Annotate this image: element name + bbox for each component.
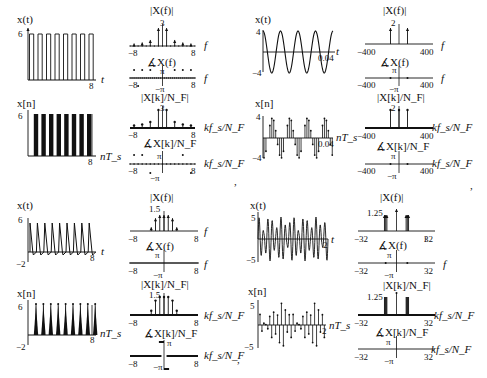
phase-dot <box>190 77 192 79</box>
phase-dot <box>137 262 139 264</box>
sample-dot <box>308 333 310 335</box>
dft-sample-dot <box>149 121 151 123</box>
phase-dot <box>141 163 143 165</box>
dft-sample-dot <box>190 124 192 126</box>
x-min-label: −8 <box>128 319 138 328</box>
x-axis-label: f <box>204 40 207 51</box>
dft-sample-dot <box>133 124 135 126</box>
dft-sample-dot <box>396 292 398 294</box>
impulse-arrow-icon <box>395 209 398 212</box>
phase-dot <box>152 77 154 79</box>
x-axis-label: f <box>443 259 446 270</box>
x-max-label: 8 <box>194 267 199 276</box>
sample-dot <box>326 120 328 122</box>
phase-dot <box>143 262 145 264</box>
phase-dot <box>131 77 133 79</box>
phase-dot <box>157 262 159 264</box>
phase-dot <box>154 163 156 165</box>
x-max-label: 400 <box>420 81 434 90</box>
time-plot-title: x(t) <box>250 200 266 211</box>
phase-dot <box>182 163 184 165</box>
y-max-label: 5 <box>251 214 256 223</box>
sample-dot <box>50 303 52 305</box>
sample-dot <box>290 120 292 122</box>
sample-dot <box>265 150 267 152</box>
phase-dot <box>183 262 185 264</box>
phase-dot <box>150 163 152 165</box>
disc-time-title: x[n] <box>17 288 35 299</box>
phase-dot <box>161 262 163 264</box>
peak-label: 2 <box>391 104 396 113</box>
sample-dot <box>273 120 275 122</box>
phase-dot <box>406 262 408 264</box>
phase-dot <box>154 77 156 79</box>
neg-pi-label: −π <box>150 174 160 183</box>
impulse-arrow-icon <box>149 40 152 43</box>
sample-dot <box>65 303 67 305</box>
phase-dot <box>193 262 195 264</box>
x-axis-label: nT_s <box>336 132 357 143</box>
x-axis-label: nT_s <box>329 320 350 331</box>
peak-label: 1.5 <box>149 205 160 214</box>
sample-block <box>34 114 38 156</box>
y-max-label: 6 <box>18 216 23 225</box>
phase-dot <box>174 77 176 79</box>
phase-dot <box>166 163 168 165</box>
phase-dot <box>133 154 135 156</box>
time-plot-title: x(t) <box>17 14 33 25</box>
x-max-label: 8 <box>191 49 196 58</box>
phase-dot <box>129 77 131 79</box>
dft-sample-dot <box>406 109 408 111</box>
peak-label: 3 <box>160 19 165 28</box>
phase-dot <box>133 163 135 165</box>
phase-dot <box>174 163 176 165</box>
phase-dot <box>137 77 139 79</box>
phase-dot <box>135 262 137 264</box>
phase-dot <box>194 163 196 165</box>
sample-dot <box>35 303 37 305</box>
x-min-label: −8 <box>128 235 138 244</box>
phase-dot <box>172 77 174 79</box>
y-min-label: −5 <box>244 343 254 352</box>
pi-label: π <box>392 66 397 75</box>
disc-time-title: x[n] <box>248 286 266 297</box>
sample-dot <box>322 125 324 127</box>
sample-dot <box>283 345 285 347</box>
dft-sample-dot <box>167 296 169 298</box>
dft-sample-dot <box>163 296 165 298</box>
sample-dot <box>296 322 298 324</box>
impulse-arrow-icon <box>175 227 178 230</box>
impulse-arrow-icon <box>165 28 168 31</box>
phase-dot <box>164 77 166 79</box>
sample-dot <box>316 157 318 159</box>
x-min-label: −8 <box>128 131 138 140</box>
phase-dot <box>162 163 164 165</box>
phase-dot <box>129 163 131 165</box>
phase-dot <box>189 262 191 264</box>
sample-dot <box>327 130 329 132</box>
phase-dot <box>162 77 164 79</box>
sample-dot <box>283 150 285 152</box>
phase-dot <box>175 262 177 264</box>
phase-dot <box>186 163 188 165</box>
magnitude-title: |X(f)| <box>150 192 173 203</box>
sample-block <box>72 114 76 156</box>
separator-comma: , <box>237 354 240 365</box>
x-axis-label: kf_s/N_F <box>432 122 472 133</box>
triangle-wave-curve <box>30 223 96 255</box>
x-axis-label: f <box>441 40 444 51</box>
square-pulse <box>55 34 59 80</box>
sample-dot <box>288 117 290 119</box>
dft-sample-dot <box>176 310 178 312</box>
sample-dot <box>273 311 275 313</box>
phase-dot <box>141 69 143 71</box>
pi-label: π <box>391 152 396 161</box>
square-pulse <box>47 34 51 80</box>
y-max-label: 6 <box>18 112 23 121</box>
phase-dot <box>158 77 160 79</box>
separator-comma: , <box>234 176 237 187</box>
neg-pi-label: −π <box>387 172 397 181</box>
axis-arrow-icon <box>26 28 29 31</box>
phase-dot <box>170 77 172 79</box>
phase-dot <box>184 77 186 79</box>
